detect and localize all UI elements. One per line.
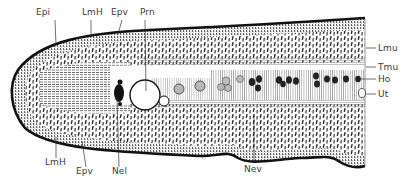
label-epi: Epi [36,8,50,17]
label-nel: Nel [112,167,127,176]
label-epv-top: Epv [111,8,128,17]
label-lmh-top: LmH [82,8,103,17]
pharynx-bulb [130,80,160,110]
label-prn: Prn [140,8,155,17]
label-tmu: Tmu [378,63,398,72]
label-ut: Ut [378,90,388,99]
nerve-ganglion-dark [114,84,124,102]
label-ho: Ho [378,75,390,84]
label-lmu: Lmu [378,44,398,53]
section-diagram [0,0,402,183]
label-lmh-bottom: LmH [45,158,66,167]
label-epv-bottom: Epv [76,167,93,176]
uterus [359,89,366,98]
label-nev: Nev [244,165,262,174]
